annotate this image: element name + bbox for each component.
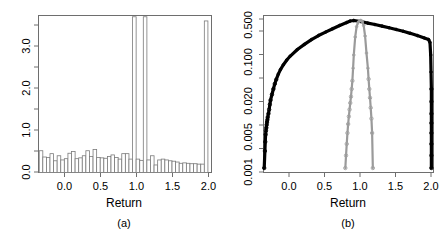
panel-b-svg: 0.001 0.005 0.020 0.100 0.500 0.0 0.5 1.… [222, 0, 444, 236]
panel-a-xtick-1: 0.5 [93, 180, 108, 192]
histogram-bar [161, 159, 165, 172]
histogram-bar [136, 159, 140, 172]
histogram-bar [179, 163, 183, 172]
histogram-bar [158, 160, 162, 173]
histogram-bar [61, 160, 65, 173]
panel-b-ytick-1: 0.005 [242, 123, 254, 151]
gray-series-line [345, 20, 373, 168]
panel-a-y-axis: 0.0 1.0 2.0 3.0 [20, 25, 39, 180]
histogram-bar [86, 151, 90, 173]
panel-a-xtick-2: 1.0 [129, 180, 144, 192]
histogram-bar [111, 155, 115, 173]
histogram-bar [194, 164, 198, 173]
histogram-bar [39, 151, 43, 173]
panel-a-ytick-2: 2.0 [20, 80, 32, 95]
histogram-bar [147, 160, 151, 173]
histogram-bar [143, 17, 147, 173]
panel-a-svg: 0.0 1.0 2.0 3.0 0.0 0.5 1.0 1.5 2.0 [0, 0, 222, 236]
histogram-bar [186, 163, 190, 172]
histogram-bar [82, 156, 86, 173]
panel-a-ytick-0: 0.0 [20, 164, 32, 179]
histogram-bar [176, 162, 180, 172]
histogram-bar [197, 164, 201, 172]
histogram-bar [168, 161, 172, 173]
histogram-bar [46, 157, 50, 172]
panel-b: 0.001 0.005 0.020 0.100 0.500 0.0 0.5 1.… [222, 0, 444, 236]
panel-b-x-axis: 0.0 0.5 1.0 1.5 2.0 [281, 173, 438, 193]
panel-a-caption: (a) [117, 217, 130, 229]
histogram-bar [183, 163, 187, 173]
panel-b-y-axis: 0.001 0.005 0.020 0.100 0.500 [242, 11, 264, 186]
panel-a-xtick-0: 0.0 [57, 180, 72, 192]
panel-b-ytick-4: 0.500 [242, 11, 254, 39]
histogram-bar [75, 159, 79, 173]
histogram-bar [133, 17, 137, 173]
panel-a-ytick-1: 1.0 [20, 122, 32, 137]
panel-a: 0.0 1.0 2.0 3.0 0.0 0.5 1.0 1.5 2.0 [0, 0, 222, 236]
panel-a-ytick-3: 3.0 [20, 38, 32, 53]
histogram-bar [79, 158, 83, 173]
histogram-bar [104, 158, 108, 172]
histogram-bar [115, 157, 119, 172]
histogram-bar [118, 159, 122, 172]
histogram-bar [89, 157, 93, 173]
panel-a-xtick-4: 2.0 [201, 180, 216, 192]
histogram-bar [93, 149, 97, 172]
panel-b-ytick-3: 0.100 [242, 48, 254, 76]
panel-a-xlabel: Return [106, 196, 142, 210]
panel-b-series [263, 19, 434, 170]
histogram-bar [68, 153, 72, 172]
panel-b-caption: (b) [341, 217, 354, 229]
histogram-bar [107, 157, 111, 173]
panel-b-xlabel: Return [330, 196, 366, 210]
panel-b-plot-frame [264, 16, 434, 173]
histogram-bar [172, 161, 176, 172]
panel-a-xtick-3: 1.5 [165, 180, 180, 192]
panel-b-xtick-4: 2.0 [423, 180, 438, 192]
histogram-bar [57, 156, 61, 173]
panel-a-x-axis: 0.0 0.5 1.0 1.5 2.0 [57, 173, 216, 193]
histogram-bar [97, 157, 101, 172]
panel-b-ytick-0: 0.001 [242, 158, 254, 186]
histogram-bar [204, 21, 208, 173]
histogram-bar [64, 159, 68, 173]
panel-b-xtick-2: 1.0 [352, 180, 367, 192]
panel-a-histogram [39, 17, 208, 173]
black-series-line [264, 20, 431, 168]
panel-b-xtick-3: 1.5 [388, 180, 403, 192]
histogram-bar [201, 164, 205, 172]
histogram-bar [165, 160, 169, 173]
histogram-bar [190, 164, 194, 173]
histogram-bar [150, 156, 154, 173]
histogram-bar [129, 159, 133, 172]
histogram-bar [72, 152, 76, 173]
histogram-bar [43, 157, 47, 172]
histogram-bar [122, 154, 126, 173]
histogram-bar [100, 158, 104, 173]
histogram-bar [54, 161, 58, 173]
histogram-bar [140, 160, 144, 172]
panel-b-xtick-1: 0.5 [317, 180, 332, 192]
panel-b-ytick-2: 0.020 [242, 87, 254, 115]
figure-container: 0.0 1.0 2.0 3.0 0.0 0.5 1.0 1.5 2.0 [0, 0, 444, 236]
panel-a-plot-frame [39, 16, 212, 173]
histogram-bar [50, 154, 54, 173]
panel-b-xtick-0: 0.0 [281, 180, 296, 192]
histogram-bar [154, 165, 158, 173]
histogram-bar [125, 154, 129, 173]
